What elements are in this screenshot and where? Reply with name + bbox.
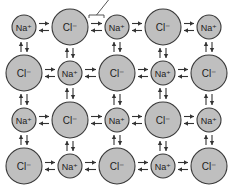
ion-label: Cl⁻ (17, 68, 31, 79)
arrow-right (184, 21, 194, 25)
arrow-up (112, 94, 116, 105)
ion-label: Cl⁻ (110, 68, 124, 79)
sodium-ion: Na⁺ (197, 15, 221, 39)
arrow-right (91, 21, 102, 25)
arrow-up (158, 88, 162, 99)
arrow-down (25, 94, 29, 105)
ion-label: Cl⁻ (110, 161, 124, 172)
arrow-down (210, 42, 214, 52)
arrow-left (184, 121, 194, 125)
arrow-down (164, 48, 168, 58)
pointer-line (97, 0, 109, 15)
arrow-down (25, 42, 29, 52)
ion-label: Cl⁻ (202, 68, 216, 79)
arrow-left (132, 121, 142, 125)
arrow-down (25, 135, 29, 145)
arrow-left (132, 28, 142, 32)
sodium-ion: Na⁺ (151, 154, 175, 178)
arrow-down (118, 42, 122, 52)
arrow-left (184, 28, 194, 32)
arrow-right (39, 21, 49, 25)
arrow-right (132, 21, 142, 25)
ion-label: Na⁺ (62, 69, 79, 79)
arrow-down (210, 94, 214, 105)
arrow-right (178, 160, 188, 164)
arrow-left (85, 167, 96, 171)
arrow-left (178, 167, 188, 171)
ion-label: Cl⁻ (17, 161, 31, 172)
ion-label: Na⁺ (109, 23, 126, 33)
sodium-ion: Na⁺ (151, 61, 175, 85)
ion-label: Na⁺ (62, 162, 79, 172)
sodium-ion: Na⁺ (12, 15, 36, 39)
sodium-ion: Na⁺ (58, 61, 82, 85)
arrow-up (19, 135, 23, 145)
chloride-ion: Cl⁻ (99, 148, 135, 184)
ion-label: Na⁺ (155, 69, 172, 79)
arrow-down (71, 88, 75, 99)
arrow-left (91, 28, 102, 32)
arrow-up (158, 141, 162, 151)
arrow-up (204, 94, 208, 105)
arrow-left (138, 167, 148, 171)
arrow-up (19, 42, 23, 52)
chloride-ion: Cl⁻ (6, 55, 42, 91)
arrow-down (164, 141, 168, 151)
chloride-ion: Cl⁻ (52, 9, 88, 45)
chloride-ion: Cl⁻ (52, 102, 88, 138)
ion-label: Na⁺ (155, 162, 172, 172)
arrow-up (65, 48, 69, 58)
ion-label: Na⁺ (109, 116, 126, 126)
bracket-line (89, 15, 104, 18)
ion-label: Cl⁻ (156, 115, 170, 126)
arrow-right (138, 67, 148, 71)
arrow-right (85, 67, 96, 71)
arrow-right (39, 114, 49, 118)
sodium-ion: Na⁺ (197, 108, 221, 132)
nacl-lattice-diagram: Na⁺Cl⁻Na⁺Cl⁻Na⁺Cl⁻Na⁺Cl⁻Na⁺Cl⁻Na⁺Cl⁻Na⁺C… (0, 0, 229, 186)
ion-label: Na⁺ (201, 23, 218, 33)
arrow-left (91, 121, 102, 125)
chloride-ion: Cl⁻ (99, 55, 135, 91)
arrow-up (65, 88, 69, 99)
arrow-down (71, 48, 75, 58)
arrow-down (118, 94, 122, 105)
highlight-bracket (89, 0, 109, 18)
arrow-left (45, 167, 55, 171)
arrow-right (138, 160, 148, 164)
ion-label: Na⁺ (16, 23, 33, 33)
arrow-right (178, 67, 188, 71)
arrow-up (19, 94, 23, 105)
arrow-left (39, 121, 49, 125)
arrow-down (164, 88, 168, 99)
chloride-ion: Cl⁻ (145, 102, 181, 138)
arrow-up (112, 135, 116, 145)
arrow-left (138, 74, 148, 78)
arrow-right (85, 160, 96, 164)
arrow-left (85, 74, 96, 78)
chloride-ion: Cl⁻ (191, 148, 227, 184)
arrow-right (45, 67, 55, 71)
arrow-down (210, 135, 214, 145)
ion-label: Cl⁻ (156, 22, 170, 33)
arrow-down (71, 141, 75, 151)
chloride-ion: Cl⁻ (145, 9, 181, 45)
chloride-ion: Cl⁻ (191, 55, 227, 91)
arrow-right (91, 114, 102, 118)
sodium-ion: Na⁺ (58, 154, 82, 178)
arrow-left (45, 74, 55, 78)
ions: Na⁺Cl⁻Na⁺Cl⁻Na⁺Cl⁻Na⁺Cl⁻Na⁺Cl⁻Na⁺Cl⁻Na⁺C… (6, 9, 227, 184)
arrow-up (158, 48, 162, 58)
sodium-ion: Na⁺ (12, 108, 36, 132)
arrow-up (204, 135, 208, 145)
arrow-up (65, 141, 69, 151)
arrow-up (112, 42, 116, 52)
arrow-right (184, 114, 194, 118)
sodium-ion: Na⁺ (105, 108, 129, 132)
ion-label: Cl⁻ (63, 22, 77, 33)
arrow-down (118, 135, 122, 145)
arrow-right (132, 114, 142, 118)
ion-label: Na⁺ (16, 116, 33, 126)
arrow-left (39, 28, 49, 32)
ion-label: Cl⁻ (202, 161, 216, 172)
